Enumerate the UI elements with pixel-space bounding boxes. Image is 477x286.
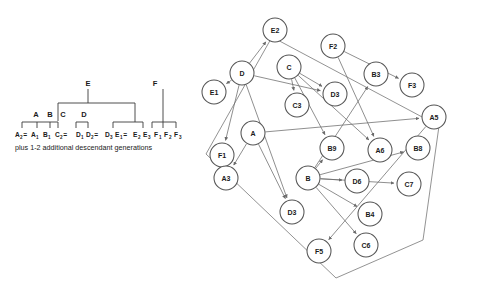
pedigree-leaf-equals: = [23,131,27,138]
graph-edge-D-to-E1 [226,80,231,84]
graph-node-C6[interactable]: C6 [354,233,378,257]
figure-root: EFABCDA2=A1B1C2=D1D2=D3E1=E2E3F1F2F3plus… [0,0,477,286]
graph-node-F2[interactable]: F2 [321,34,345,58]
pedigree-leaf-equals: = [123,131,127,138]
pedigree-leaf-subscript: 3 [110,135,113,140]
pedigree-leaf-c2: C2= [55,131,67,140]
pedigree-leaf-e1: E1= [115,131,127,140]
pedigree-leaf-equals: = [94,131,98,138]
graph-node-label: E2 [271,27,280,34]
graph-node-A3[interactable]: A3 [214,166,238,190]
pedigree-leaf-d3: D3 [105,131,113,140]
graph-node-label: D3 [288,209,297,216]
graph-node-label: C3 [293,102,302,109]
pedigree-leaf-b1: B1 [43,131,51,140]
pedigree-diagram: EFABCDA2=A1B1C2=D1D2=D3E1=E2E3F1F2F3plus… [0,0,195,286]
pedigree-family-c: C [60,110,66,119]
graph-node-A[interactable]: A [241,121,265,145]
pedigree-leaf-equals: = [63,131,67,138]
pedigree-leaf-subscript: 1 [81,135,84,140]
graph-node-label: E1 [210,89,219,96]
graph-node-B[interactable]: B [296,166,320,190]
pedigree-leaf-a1: A1 [31,131,39,140]
graph-node-D3a[interactable]: D3 [323,82,347,106]
graph-node-F3[interactable]: F3 [400,73,424,97]
pedigree-leaf-subscript: 2 [138,135,141,140]
pedigree-graph-panel: E2F2CDB3F3E1D3C3A5AB9B8A6F1A3BD6C7D3B4C6… [190,0,477,286]
pedigree-leaf-base: F [154,131,158,138]
pedigree-leaf-subscript: 1 [159,135,162,140]
graph-node-label: B4 [366,211,375,218]
graph-node-label: B3 [372,71,381,78]
graph-node-A6[interactable]: A6 [368,138,392,162]
graph-node-layer: E2F2CDB3F3E1D3C3A5AB9B8A6F1A3BD6C7D3B4C6… [202,18,446,263]
pedigree-leaf-d2: D2= [86,131,98,140]
pedigree-family-a: A [33,110,39,119]
graph-node-D6[interactable]: D6 [345,169,369,193]
pedigree-family-d: D [81,110,87,119]
graph-node-E2[interactable]: E2 [263,18,287,42]
pedigree-leaf-f2: F2 [164,131,172,140]
graph-node-B9[interactable]: B9 [320,136,344,160]
graph-node-B8[interactable]: B8 [406,136,430,160]
graph-node-E1[interactable]: E1 [202,80,226,104]
pedigree-leaf-e2: E2 [133,131,141,140]
graph-node-label: D3 [331,91,340,98]
pedigree-founder-e: E [85,79,90,88]
graph-node-label: A3 [222,175,231,182]
graph-node-F1[interactable]: F1 [210,143,234,167]
graph-node-label: F3 [408,82,416,89]
graph-node-label: B8 [414,145,423,152]
graph-node-C[interactable]: C [277,55,301,79]
pedigree-leaf-a2: A2= [15,131,27,140]
graph-node-label: D6 [353,178,362,185]
graph-node-label: C7 [405,181,414,188]
pedigree-family-b: B [47,110,53,119]
graph-node-C3[interactable]: C3 [285,93,309,117]
graph-node-D3b[interactable]: D3 [280,200,304,224]
pedigree-graph: E2F2CDB3F3E1D3C3A5AB9B8A6F1A3BD6C7D3B4C6… [190,0,477,286]
pedigree-founder-f: F [153,79,158,88]
graph-node-label: A [250,130,255,137]
graph-node-label: F2 [329,43,337,50]
pedigree-leaf-e3: E3 [143,131,151,140]
graph-edge-D-to-F1 [226,85,239,140]
graph-node-label: A5 [430,114,439,121]
graph-node-A5[interactable]: A5 [422,105,446,129]
graph-edge-A-to-A3 [234,144,247,165]
graph-node-label: B [305,175,310,182]
pedigree-leaf-f1: F1 [154,131,162,140]
pedigree-leaf-subscript: 1 [48,135,51,140]
pedigree-leaf-subscript: 2 [169,135,172,140]
graph-node-B4[interactable]: B4 [358,202,382,226]
graph-node-label: D [239,70,244,77]
graph-node-label: A6 [376,147,385,154]
graph-edge-A-to-D3b [259,144,286,198]
pedigree-leaf-d1: D1 [76,131,84,140]
graph-node-label: C [286,64,291,71]
graph-node-F5[interactable]: F5 [307,239,331,263]
pedigree-caption: plus 1-2 additional descendant generatio… [15,143,152,152]
pedigree-leaf-base: F [174,131,178,138]
graph-node-label: B9 [328,145,337,152]
pedigree-leaf-f3: F3 [174,131,182,140]
pedigree-leaf-subscript: 3 [148,135,151,140]
pedigree-leaf-subscript: 1 [36,135,39,140]
pedigree-leaf-subscript: 3 [179,135,182,140]
graph-node-D[interactable]: D [230,61,254,85]
graph-node-label: F1 [218,152,226,159]
graph-node-label: C6 [362,242,371,249]
graph-node-C7[interactable]: C7 [397,172,421,196]
pedigree-panel: EFABCDA2=A1B1C2=D1D2=D3E1=E2E3F1F2F3plus… [0,0,195,286]
graph-node-B3[interactable]: B3 [364,62,388,86]
graph-node-label: F5 [315,248,323,255]
pedigree-leaf-base: F [164,131,168,138]
